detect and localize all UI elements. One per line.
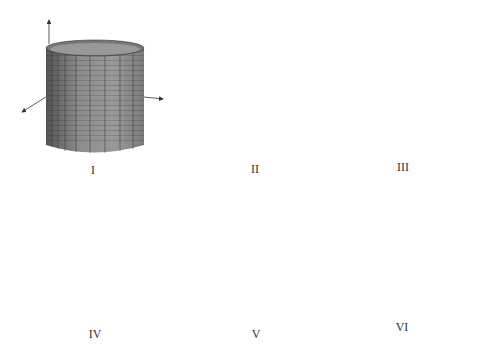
figure-canvas	[0, 0, 477, 350]
panel-label-iii: III	[397, 160, 409, 175]
panel-label-vi: VI	[396, 320, 409, 335]
panel-label-ii: II	[251, 162, 259, 177]
panel-label-i: I	[91, 163, 95, 178]
panel-label-iv: IV	[89, 327, 102, 342]
panel-label-v: V	[252, 327, 261, 342]
panel-i-cylinder	[22, 20, 163, 153]
